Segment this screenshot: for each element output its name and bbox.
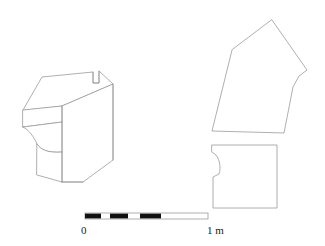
scale-bar-start-label: 0 xyxy=(81,224,87,236)
section-profile-outline xyxy=(212,145,277,208)
plan-view-outline xyxy=(212,20,307,133)
figure-canvas: 0 1 m xyxy=(0,0,325,246)
scale-bar-segment-dark-2 xyxy=(110,214,128,219)
plan-view-polygon xyxy=(212,20,307,133)
scale-bar-segment-dark-1 xyxy=(85,214,101,219)
scale-bar: 0 1 m xyxy=(81,213,224,236)
block-rebate-notch-edge xyxy=(93,71,99,83)
archaeological-drawing-svg: 0 1 m xyxy=(0,0,325,246)
section-profile-path xyxy=(212,145,277,208)
scale-bar-segment-dark-3 xyxy=(140,214,161,219)
scale-bar-end-label: 1 m xyxy=(207,224,224,236)
isometric-view-of-moulded-block xyxy=(23,71,113,182)
block-ogee-moulding-face xyxy=(23,122,62,152)
